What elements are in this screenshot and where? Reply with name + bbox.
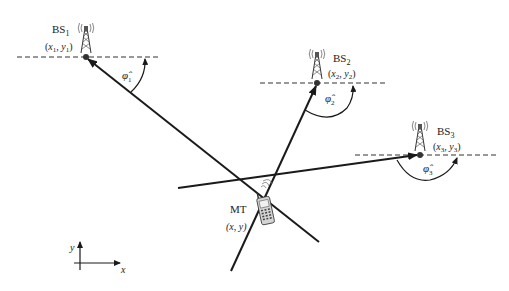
bs2-label: BS2: [333, 52, 350, 67]
bs2-angle-label: φ̂2: [325, 92, 336, 107]
bs2-coords: (x2, y2): [328, 68, 356, 81]
x-axis-label: x: [120, 264, 126, 275]
mt-coords: (x, y): [226, 221, 247, 233]
aoa-localization-diagram: BS1 (x1, y1) φ̂1 BS2 (x2, y2) φ̂2 BS3 (x…: [0, 0, 509, 291]
bs1-angle-label: φ̂1: [122, 69, 133, 84]
bs3-tower-icon: [412, 121, 428, 151]
bs2-tower-icon: [309, 49, 325, 79]
bs3-angle-label: φ̂3: [423, 162, 434, 177]
mt-label: MT: [230, 203, 247, 215]
bs3-coords: (x3, y3): [433, 141, 461, 154]
bearing-line-bs1: [88, 59, 319, 242]
bs1-label: BS1: [52, 23, 69, 38]
bs1-point: [83, 54, 89, 60]
bs2-point: [314, 80, 320, 86]
bs3-point: [417, 152, 423, 158]
y-axis-label: y: [69, 242, 75, 253]
bs1-coords: (x1, y1): [45, 41, 73, 54]
bs1-tower-icon: [78, 23, 94, 53]
bs3-label: BS3: [437, 125, 454, 140]
angle-arc-bs1: [131, 59, 145, 92]
